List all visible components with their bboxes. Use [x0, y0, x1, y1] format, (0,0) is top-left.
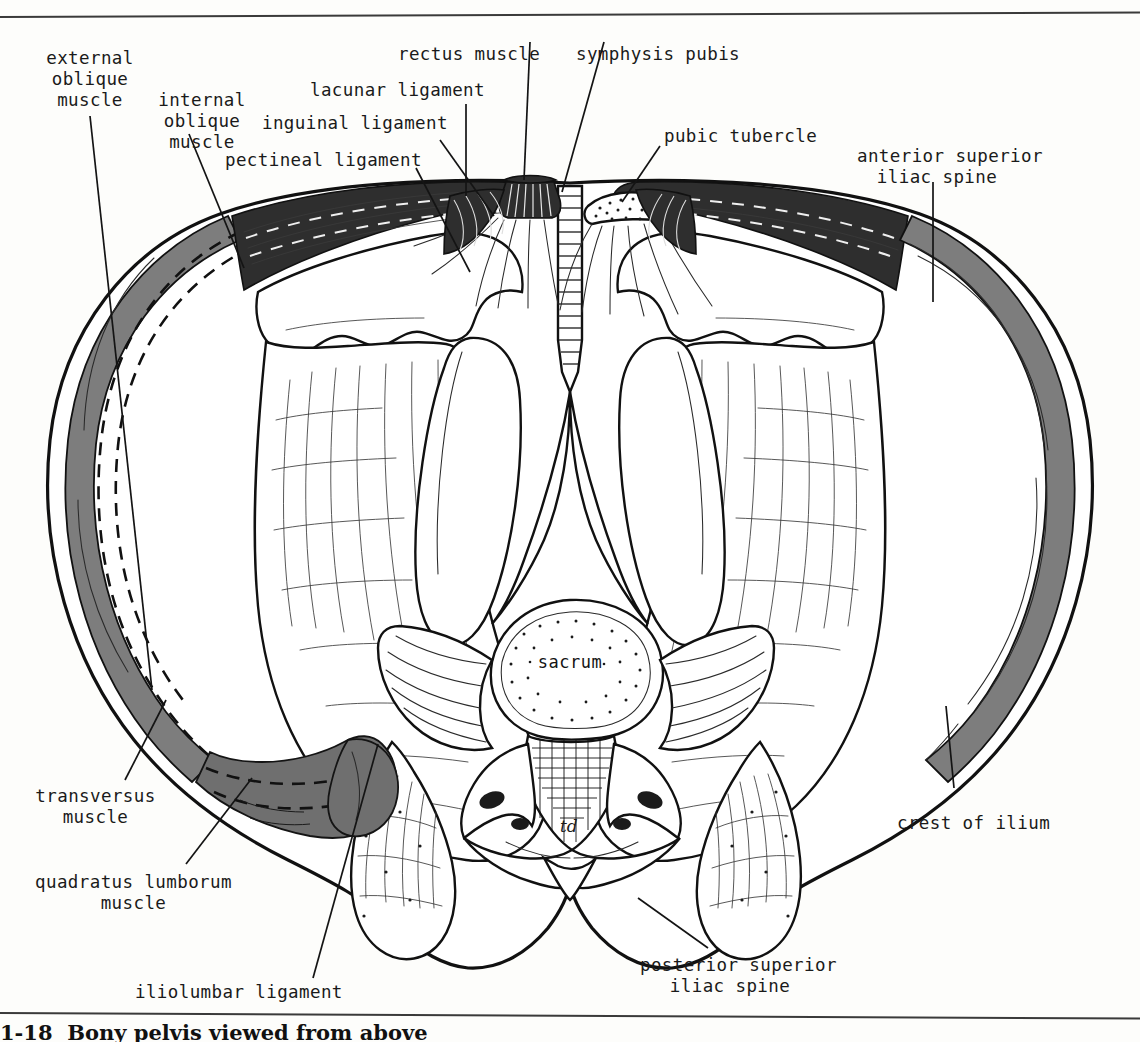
- label-internal-oblique-muscle: internal oblique muscle: [134, 90, 270, 153]
- label-pubic-tubercle: pubic tubercle: [664, 126, 817, 147]
- label-transversus-muscle: transversus muscle: [28, 786, 163, 828]
- label-posterior-superior-iliac-spine: posterior superior iliac spine: [640, 955, 820, 997]
- label-iliolumbar-ligament: iliolumbar ligament: [135, 982, 343, 1003]
- label-quadratus-lumborum-muscle: quadratus lumborum muscle: [26, 872, 241, 914]
- label-rectus-muscle: rectus muscle: [398, 44, 540, 65]
- label-anterior-superior-iliac-spine: anterior superior iliac spine: [857, 146, 1017, 188]
- label-pectineal-ligament: pectineal ligament: [225, 150, 422, 171]
- figure-caption: 1-18 Bony pelvis viewed from above: [0, 1020, 1140, 1042]
- artist-signature: td: [560, 816, 578, 836]
- label-inguinal-ligament: inguinal ligament: [262, 113, 448, 134]
- label-lacunar-ligament: lacunar ligament: [310, 80, 485, 101]
- figure-page: sacrum: [0, 0, 1140, 1042]
- label-symphysis-pubis: symphysis pubis: [576, 44, 740, 65]
- sacrum-label: sacrum: [538, 652, 602, 672]
- label-crest-of-ilium: crest of ilium: [897, 813, 1050, 834]
- sacrum-body: sacrum: [491, 600, 663, 740]
- rectus-muscle-shape: [499, 176, 560, 219]
